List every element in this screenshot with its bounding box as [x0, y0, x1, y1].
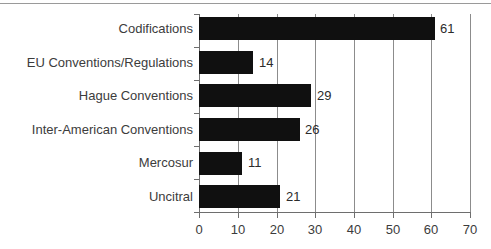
bar-eu-conventions-regulations	[199, 51, 253, 74]
x-tick-label-50: 50	[378, 222, 408, 237]
gridline-50	[393, 14, 394, 212]
x-tick-label-20: 20	[262, 222, 292, 237]
figure-top-rule	[0, 3, 491, 4]
y-tick-1	[194, 47, 199, 48]
x-tick-label-0: 0	[184, 222, 214, 237]
bar-chart: Codifications EU Conventions/Regulations…	[0, 0, 491, 249]
x-tick-70	[470, 213, 471, 218]
category-label-eu-conventions-regulations: EU Conventions/Regulations	[27, 56, 193, 70]
gridline-10	[238, 14, 239, 212]
x-tick-0	[199, 213, 200, 218]
bar-inter-american-conventions	[199, 118, 300, 141]
x-tick-label-30: 30	[300, 222, 330, 237]
category-label-uncitral: Uncitral	[149, 190, 193, 204]
gridline-30	[315, 14, 316, 212]
value-label-codifications: 61	[440, 22, 454, 36]
value-label-inter-american-conventions: 26	[305, 123, 319, 137]
x-tick-50	[393, 213, 394, 218]
bar-hague-conventions	[199, 84, 311, 107]
value-label-eu-conventions-regulations: 14	[259, 56, 273, 70]
gridline-60	[431, 14, 432, 212]
x-tick-label-10: 10	[223, 222, 253, 237]
y-axis-line	[199, 14, 200, 212]
bar-codifications	[199, 17, 435, 40]
x-tick-label-60: 60	[416, 222, 446, 237]
plot-area	[199, 14, 470, 212]
value-label-hague-conventions: 29	[317, 89, 331, 103]
category-label-inter-american-conventions: Inter-American Conventions	[32, 123, 193, 137]
y-tick-6	[194, 212, 199, 213]
y-tick-4	[194, 146, 199, 147]
x-tick-20	[277, 213, 278, 218]
category-label-mercosur: Mercosur	[139, 156, 193, 170]
category-label-codifications: Codifications	[119, 22, 193, 36]
x-tick-30	[315, 213, 316, 218]
category-label-hague-conventions: Hague Conventions	[79, 89, 193, 103]
x-tick-label-40: 40	[339, 222, 369, 237]
y-tick-5	[194, 179, 199, 180]
gridline-40	[354, 14, 355, 212]
y-tick-3	[194, 113, 199, 114]
gridline-20	[277, 14, 278, 212]
x-tick-40	[354, 213, 355, 218]
bar-mercosur	[199, 152, 242, 175]
x-tick-label-70: 70	[455, 222, 485, 237]
y-tick-0	[194, 14, 199, 15]
value-label-uncitral: 21	[286, 190, 300, 204]
y-tick-2	[194, 80, 199, 81]
bar-uncitral	[199, 185, 280, 208]
x-tick-10	[238, 213, 239, 218]
value-label-mercosur: 11	[248, 156, 262, 170]
x-tick-60	[431, 213, 432, 218]
gridline-70	[470, 14, 471, 212]
